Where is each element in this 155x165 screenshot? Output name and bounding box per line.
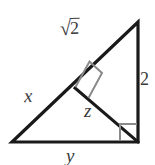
label-base-side-y: y — [66, 146, 74, 165]
geometry-figure: √2 2 x z y — [0, 0, 155, 165]
label-vertical-side-2: 2 — [140, 70, 149, 88]
label-hypotenuse-upper-sqrt2: √2 — [60, 18, 80, 38]
radical-expression: √2 — [60, 18, 81, 39]
label-hypotenuse-lower-x: x — [24, 86, 33, 105]
radicand-value: 2 — [70, 18, 81, 38]
label-altitude-segment-z: z — [84, 101, 91, 120]
